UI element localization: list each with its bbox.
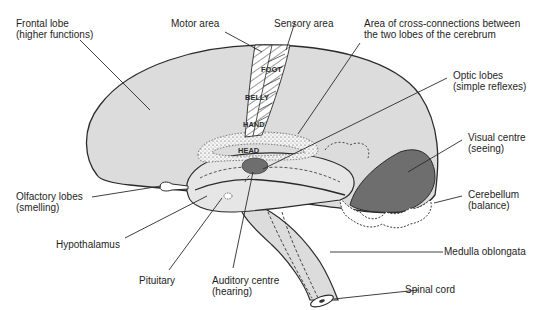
- auditory-centre-region: [242, 158, 268, 174]
- label-frontal-lobe: Frontal lobe (higher functions): [16, 18, 93, 40]
- label-visual-centre: Visual centre (seeing): [468, 132, 526, 154]
- label-medulla-oblongata: Medulla oblongata: [444, 246, 526, 257]
- label-auditory-centre: Auditory centre (hearing): [212, 275, 279, 297]
- label-sensory-area: Sensory area: [274, 18, 333, 29]
- label-pituitary: Pituitary: [139, 275, 175, 286]
- strip-label-belly: BELLY: [245, 93, 269, 102]
- strip-label-foot: FOOT: [261, 65, 282, 74]
- pituitary-region: [224, 193, 232, 199]
- strip-label-head: HEAD: [238, 146, 260, 155]
- label-spinal-cord: Spinal cord: [405, 284, 455, 295]
- brain-diagram: FOOT BELLY HAND HEAD: [0, 0, 545, 310]
- label-optic-lobes: Optic lobes (simple reflexes): [453, 70, 526, 92]
- label-olfactory-lobes: Olfactory lobes (smelling): [16, 191, 83, 213]
- label-motor-area: Motor area: [171, 18, 219, 29]
- strip-label-hand: HAND: [243, 120, 265, 129]
- label-cerebellum: Cerebellum (balance): [468, 189, 519, 211]
- label-cross-connections: Area of cross-connections between the tw…: [364, 18, 520, 40]
- label-hypothalamus: Hypothalamus: [56, 239, 120, 250]
